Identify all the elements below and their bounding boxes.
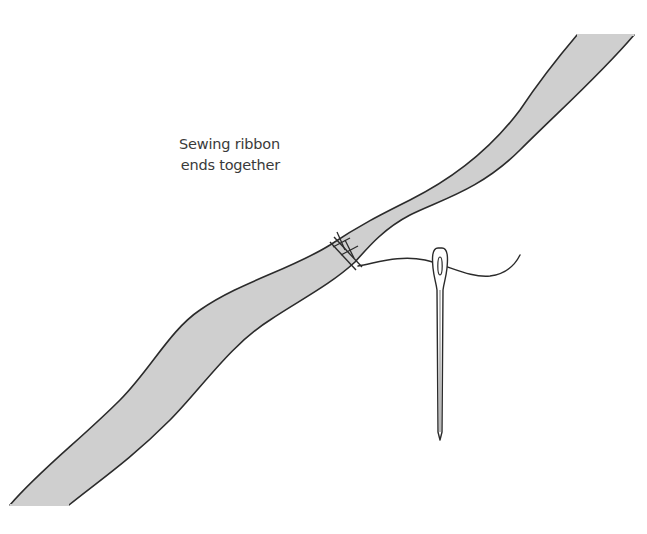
needle-icon xyxy=(433,248,448,440)
ribbon-illustration xyxy=(0,0,647,534)
caption-line-2: ends together xyxy=(150,155,280,176)
caption: Sewing ribbon ends together xyxy=(150,134,280,176)
diagram-canvas: Sewing ribbon ends together xyxy=(0,0,647,534)
caption-line-1: Sewing ribbon xyxy=(150,134,280,155)
ribbon xyxy=(10,35,634,505)
needle-eye xyxy=(438,257,442,275)
